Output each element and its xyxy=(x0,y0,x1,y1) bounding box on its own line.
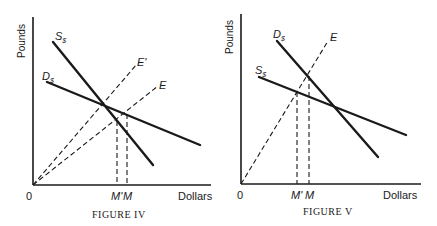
y-axis-label: Pounds xyxy=(224,20,235,54)
label-e: E xyxy=(330,31,338,43)
label-e: E xyxy=(159,79,167,91)
tick-m-prime: M' xyxy=(291,189,303,201)
label-s-dollar: S$ xyxy=(255,64,266,78)
supply-dollar-curve xyxy=(259,77,406,135)
demand-dollar-curve xyxy=(47,82,200,145)
label-s-dollar: S$ xyxy=(55,30,66,44)
label-d-dollar: D$ xyxy=(42,70,54,84)
x-axis-label: Dollars xyxy=(178,190,213,202)
figure-caption: FIGURE V xyxy=(303,206,353,217)
tick-m-prime: M' xyxy=(111,190,123,202)
origin-label: 0 xyxy=(237,189,243,201)
label-d-dollar: D$ xyxy=(273,28,285,42)
figure-iv: Pounds S$ D$ E' E 0 M' M Dollars FIGURE … xyxy=(16,17,213,220)
e-line xyxy=(241,41,328,184)
diagram-canvas: Pounds S$ D$ E' E 0 M' M Dollars FIGURE … xyxy=(0,0,437,226)
label-e-prime: E' xyxy=(137,56,147,68)
x-axis-label: Dollars xyxy=(383,189,418,201)
figure-caption: FIGURE IV xyxy=(92,209,146,220)
origin-label: 0 xyxy=(26,190,32,202)
tick-m: M xyxy=(305,189,315,201)
y-axis-label: Pounds xyxy=(16,24,27,58)
tick-m: M xyxy=(123,190,133,202)
figure-v: Pounds D$ S$ E 0 M' M Dollars FIGURE V xyxy=(224,14,421,217)
